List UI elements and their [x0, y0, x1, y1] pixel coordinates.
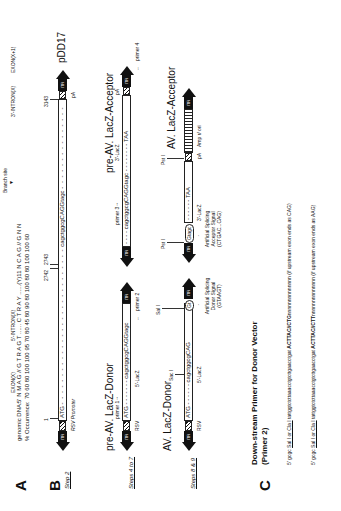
rsv-label: RSV: [196, 421, 202, 431]
primer-seq-1: 5' gcgc Sal I or Cla I tattggtctcttaaacc…: [286, 203, 292, 465]
primer2-label: primer 2: [134, 293, 140, 311]
primer2-arrow: ←: [134, 316, 140, 321]
primer4-arrow: ←: [134, 66, 140, 71]
pos-1: 1: [43, 418, 49, 421]
itr-left: ITR: [122, 247, 131, 259]
rsv-promoter-label: RSV Promoter: [70, 399, 76, 431]
rsv-label: RSV: [134, 421, 140, 431]
primer1-label: primer 1: [114, 401, 120, 419]
panel-c-title: Down-stream Primer for Donor Vector: [250, 321, 259, 465]
atg-codon: ATG: [123, 406, 129, 418]
itr-left: ITR: [122, 431, 131, 443]
steps8and9-label: Steps 8 & 9: [190, 458, 196, 489]
pdd17-label: pDD17: [56, 32, 67, 63]
rsv-block: [123, 421, 130, 431]
pa-block: [59, 91, 66, 99]
primer3-label: primer 3: [114, 207, 120, 225]
itr-right: ITR: [184, 287, 193, 299]
itr-left: ITR: [58, 431, 67, 443]
genomic-dna-label: genomic DNA:: [16, 402, 22, 441]
taa-codon: TAA: [66, 329, 67, 340]
steps4to7-label: Steps 4 to 7: [128, 457, 134, 489]
donor-signal-label: Artificial Splicing Donor Signal (GTAAGT…: [204, 273, 222, 319]
donor-title: AV. LacZ-Donor: [162, 381, 173, 451]
itr-right-arrowhead: [56, 70, 70, 79]
panel-c-label: C: [256, 480, 273, 491]
lacz3-label: 3'-LacZ: [196, 204, 202, 221]
splice-seq: cagctggcgCAGGtagc: [123, 322, 129, 378]
acceptor-signal-label: Artificial Splicing Acceptor Signal (CTG…: [204, 201, 222, 257]
primer3-arrow: →: [113, 202, 119, 207]
acceptor-ag: Gtagc: [185, 224, 194, 243]
itr-left-arrowhead: [182, 442, 196, 451]
pos-2743: 2743: [43, 254, 49, 265]
primer1-arrow: →: [113, 396, 119, 401]
saci-label: Sac I: [168, 370, 174, 381]
psti-label-b: Pst I: [160, 155, 166, 165]
itr-right-arrowhead: [182, 278, 196, 287]
itr-right: ITR: [184, 97, 193, 109]
pos-3143: 3143: [43, 96, 49, 107]
itr-left: ITR: [184, 243, 193, 255]
donor-insert: ATG - - - - - - cagctggcgCAG: [184, 303, 193, 421]
branch-site-arrow: ▼: [8, 180, 14, 185]
splice-seq: cagctggcgCAG: [185, 342, 191, 382]
primer-seq-2: 5' gcgc Sal I or Cla I tattggtctcttaaacc…: [310, 205, 316, 465]
taa-codon: TAA: [123, 131, 129, 142]
lacz5-label: 5'-LacZ: [134, 370, 140, 387]
pa-label: pA: [196, 153, 202, 159]
taa-codon: TAA: [185, 187, 191, 198]
panel-c-subtitle: (Primer 2): [260, 428, 269, 465]
rsv-block: [185, 421, 192, 431]
itr-right: ITR: [58, 79, 67, 91]
amp-ori-block: [184, 109, 193, 153]
acceptor-insert: - - - - - - TAA: [184, 161, 193, 223]
panel-b-label: B: [46, 480, 63, 491]
donor-signal-gt: Gt: [185, 300, 194, 311]
itr-left: ITR: [184, 431, 193, 443]
psti-label-a: Pst I: [160, 239, 166, 249]
pa-block: [185, 153, 192, 161]
step2-label: Step 2: [64, 472, 70, 489]
atg-codon: ATG: [59, 406, 65, 418]
exon-x1-label: EXON(X+1): [10, 46, 16, 73]
itr-left-arrowhead: [120, 258, 134, 267]
rsv-promoter-block: [59, 421, 66, 431]
intron3-label: 3'-INTRON(X): [10, 86, 16, 117]
pos-2742: 2742: [43, 270, 49, 281]
pdd17-insert: ATG - - - - - - - - - - - - - - - - - - …: [58, 99, 67, 421]
occurrence-label: % Occurrence:: [24, 401, 30, 441]
panel-a-label: A: [12, 480, 29, 491]
splice-seq: cagctggcgCAGGtagc: [123, 173, 129, 229]
acceptor-signal-arrow: ↑: [196, 235, 202, 238]
pa-label: pA: [114, 89, 120, 95]
itr-right-arrowhead: [182, 88, 196, 97]
pre-donor-insert: ATG - - - - - - - cagctggcgCAGGtagc: [122, 303, 131, 421]
splice-seq: cagctggcgCAGGtagc: [59, 190, 65, 246]
restriction-sites: Sal I or Cla I: [310, 420, 316, 448]
atg-codon: ATG: [185, 406, 191, 418]
lacz5-label: 5'-LacZ: [196, 366, 202, 383]
genomic-sequence: 5' N M A G // G T R A G T ...... C T R A…: [16, 224, 22, 403]
itr-right: ITR: [122, 291, 131, 303]
pa-block: [123, 87, 130, 95]
itr-left-arrowhead: [56, 442, 70, 451]
pa-label: pA: [70, 92, 76, 98]
itr-right-arrowhead: [120, 282, 134, 291]
amp-ori-label: Amp r/ ori: [196, 125, 202, 147]
donor-signal-arrow: ↑: [196, 304, 202, 307]
itr-left-arrowhead: [120, 442, 134, 451]
restriction-sites: Sal I or Cla I: [286, 420, 292, 448]
figure: A EXON(X) 5'-INTRON(X) Branch site ▼ 3'-…: [0, 0, 341, 511]
occurrence-values: 70 60 80 100 100 95 70 80 45 80 90 80 10…: [24, 234, 30, 399]
primer4-label: primer 4: [134, 43, 140, 61]
acceptor-title: AV. LacZ-Acceptor: [166, 67, 177, 149]
itr-left-arrowhead: [182, 254, 196, 263]
itr-right: ITR: [122, 75, 131, 87]
sali-label: Sal I: [155, 305, 161, 315]
pre-acceptor-insert: - - - - cagctggcgCAGGtagc - - - - - - - …: [122, 95, 131, 247]
lacz3-label: 3'-LacZ: [114, 144, 120, 161]
itr-right-arrowhead: [120, 66, 134, 75]
